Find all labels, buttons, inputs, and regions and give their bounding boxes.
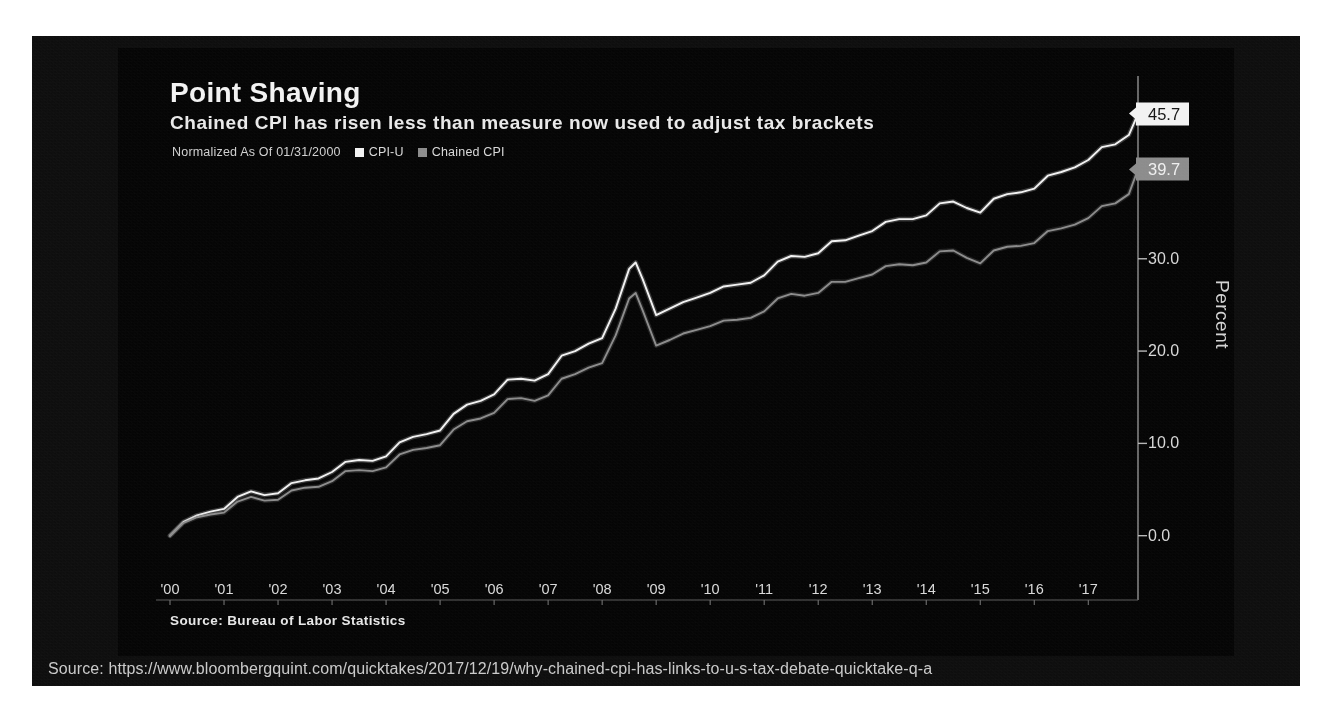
value-callout-cpi-u-text: 45.7 [1148,104,1180,123]
y-axis-tick-label: 30.0 [1148,250,1179,268]
legend-item-cpi-u[interactable]: CPI-U [355,145,404,159]
value-callout-chained-cpi: 39.7 [1136,158,1189,181]
x-axis-tick-label: '00 [161,581,180,597]
x-axis-tick-label: '15 [971,581,990,597]
chart-svg [118,48,1234,656]
series-glow-cpi-u [170,114,1138,536]
y-axis-tick-label: 0.0 [1148,527,1170,545]
y-axis-title: Percent [1211,280,1233,349]
x-axis-tick-label: '10 [701,581,720,597]
value-callout-cpi-u: 45.7 [1136,102,1189,125]
plot-area: 0.010.020.030.0 '00'01'02'03'04'05'06'07… [118,48,1234,656]
chart-headline: Point Shaving Chained CPI has risen less… [170,78,874,134]
bloomberg-chart-card: Point Shaving Chained CPI has risen less… [118,48,1234,656]
x-axis-tick-label: '12 [809,581,828,597]
series-line-cpi-u [170,114,1138,536]
x-axis-tick-label: '06 [485,581,504,597]
x-axis-tick-label: '03 [323,581,342,597]
legend-label-chained-cpi: Chained CPI [432,145,505,159]
x-axis-tick-label: '14 [917,581,936,597]
presentation-slide: Point Shaving Chained CPI has risen less… [32,36,1300,686]
chart-source-line: Source: Bureau of Labor Statistics [170,613,406,628]
value-callout-chained-cpi-text: 39.7 [1148,160,1180,179]
x-axis-tick-label: '04 [377,581,396,597]
x-axis-tick-label: '08 [593,581,612,597]
x-axis-tick-label: '05 [431,581,450,597]
x-axis-tick-label: '01 [215,581,234,597]
x-axis-tick-label: '17 [1079,581,1098,597]
normalization-note: Normalized As Of 01/31/2000 [172,145,341,159]
series-group [170,114,1138,536]
legend-swatch-chained-cpi [418,148,427,157]
x-axis-tick-label: '02 [269,581,288,597]
chart-legend: Normalized As Of 01/31/2000 CPI-U Chaine… [172,145,505,159]
legend-swatch-cpi-u [355,148,364,157]
legend-item-chained-cpi[interactable]: Chained CPI [418,145,505,159]
y-axis-tick-label: 20.0 [1148,342,1179,360]
y-axis-tick-label: 10.0 [1148,434,1179,452]
source-url-caption: Source: https://www.bloombergquint.com/q… [48,660,932,678]
chart-subtitle: Chained CPI has risen less than measure … [170,112,874,134]
x-axis-tick-label: '11 [755,581,773,597]
legend-label-cpi-u: CPI-U [369,145,404,159]
x-axis-tick-label: '09 [647,581,666,597]
x-axis-tick-label: '16 [1025,581,1044,597]
page-title: Point Shaving [170,78,874,107]
x-axis-tick-label: '07 [539,581,558,597]
x-axis-tick-label: '13 [863,581,882,597]
